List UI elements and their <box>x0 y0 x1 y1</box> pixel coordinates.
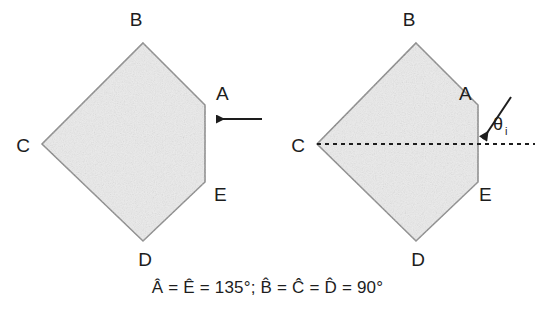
left-vertex-label-c: C <box>16 135 30 156</box>
right-vertex-label-d: D <box>411 249 425 270</box>
right-pentagon-shape <box>317 43 478 241</box>
left-vertex-label-e: E <box>214 184 227 205</box>
left-vertex-label-d: D <box>138 249 152 270</box>
right-vertex-label-a: A <box>459 83 472 104</box>
angle-theta-subscript: i <box>505 125 507 137</box>
angle-theta-label-group: θ i <box>493 114 507 137</box>
left-vertex-label-b: B <box>130 9 143 30</box>
right-vertex-label-e: E <box>479 184 492 205</box>
optics-figure: B A C E D θ i B A C E D Â = Ê = 135° <box>0 0 535 314</box>
figure-caption: Â = Ê = 135°; B̂ = Ĉ = D̂ = 90° <box>0 278 535 298</box>
left-pentagon-shape <box>42 43 205 241</box>
right-vertex-label-c: C <box>291 135 305 156</box>
angle-theta-symbol: θ <box>493 114 503 134</box>
right-vertex-label-b: B <box>403 9 416 30</box>
right-pentagon-group: θ i B A C E D <box>291 9 535 270</box>
left-vertex-label-a: A <box>216 83 229 104</box>
figure-canvas: B A C E D θ i B A C E D <box>0 0 535 314</box>
left-pentagon-group: B A C E D <box>16 9 262 270</box>
